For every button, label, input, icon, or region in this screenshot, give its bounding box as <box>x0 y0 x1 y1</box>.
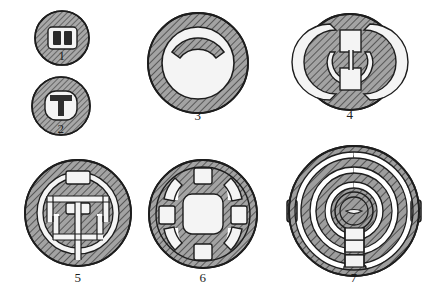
illustration-plate <box>0 0 441 299</box>
figure-label-6: 6 <box>191 270 215 286</box>
figure-label-5: 5 <box>66 270 90 286</box>
figure-7-drawing <box>287 146 421 276</box>
figure-label-7: 7 <box>342 270 366 286</box>
figure-label-1: 1 <box>50 48 74 64</box>
figure-label-4: 4 <box>338 107 362 123</box>
figure-label-2: 2 <box>49 121 73 137</box>
figure-3-drawing <box>148 13 248 113</box>
figure-label-3: 3 <box>186 108 210 124</box>
figure-6-drawing <box>149 160 257 268</box>
figure-4-drawing <box>292 14 408 110</box>
figure-5-drawing <box>25 160 131 266</box>
